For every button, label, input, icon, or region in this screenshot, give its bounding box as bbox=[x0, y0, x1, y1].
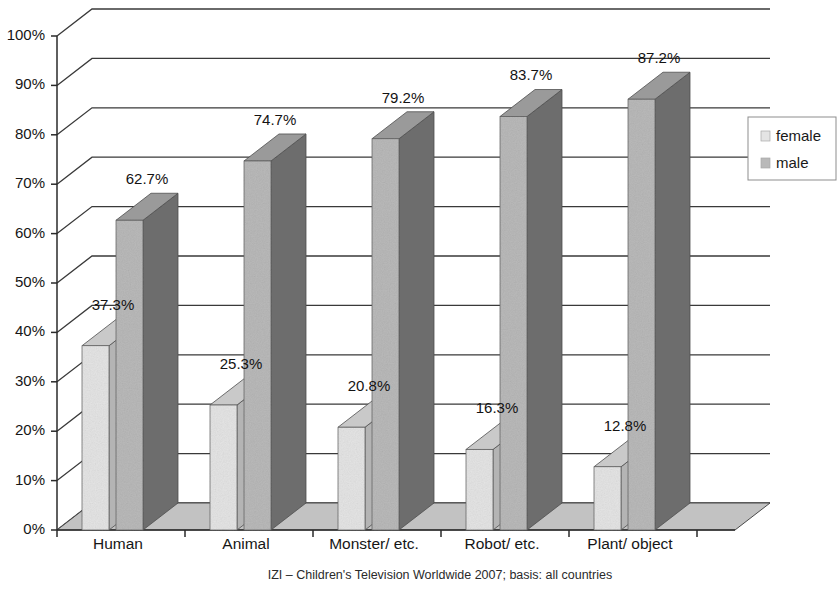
bar-value-label: 37.3% bbox=[92, 296, 135, 313]
bar-front-face bbox=[244, 161, 271, 530]
legend-label-male: male bbox=[776, 154, 809, 171]
bar-front-face bbox=[372, 139, 399, 530]
bar-front-face bbox=[500, 117, 527, 530]
bar-side-face bbox=[271, 134, 306, 530]
y-axis-tick-label: 10% bbox=[15, 471, 45, 488]
y-axis-tick-label: 30% bbox=[15, 372, 45, 389]
x-axis-category-label: Plant/ object bbox=[587, 535, 673, 552]
bar-value-label: 83.7% bbox=[510, 66, 553, 83]
bar-side-face bbox=[143, 193, 178, 530]
bar-front-face bbox=[338, 427, 365, 530]
y-axis-tick-label: 40% bbox=[15, 322, 45, 339]
bar-value-label: 25.3% bbox=[220, 355, 263, 372]
bar-value-label: 87.2% bbox=[638, 49, 681, 66]
chart-canvas: 0%10%20%30%40%50%60%70%80%90%100% HumanA… bbox=[0, 0, 839, 590]
legend-swatch-male bbox=[761, 158, 770, 168]
legend-label-female: female bbox=[776, 127, 821, 144]
bar-value-label: 74.7% bbox=[254, 111, 297, 128]
y-axis-tick-label: 50% bbox=[15, 273, 45, 290]
bar-front-face bbox=[82, 346, 109, 530]
bar-value-label: 20.8% bbox=[348, 377, 391, 394]
bar-front-face bbox=[210, 405, 237, 530]
y-axis-tick-label: 90% bbox=[15, 75, 45, 92]
y-axis-tick-label: 80% bbox=[15, 125, 45, 142]
bar-front-face bbox=[628, 99, 655, 530]
bar-value-label: 12.8% bbox=[604, 417, 647, 434]
bar-male-animal bbox=[244, 134, 306, 530]
bar-value-label: 16.3% bbox=[476, 399, 519, 416]
bar-front-face bbox=[116, 220, 143, 530]
y-axis-tick-label: 0% bbox=[23, 520, 45, 537]
bar-male-plant-object bbox=[628, 72, 690, 530]
bar-male-human bbox=[116, 193, 178, 530]
legend-swatch-female bbox=[761, 131, 770, 141]
y-axis-tick-label: 20% bbox=[15, 421, 45, 438]
bar-male-monster-etc- bbox=[372, 112, 434, 530]
x-axis-category-label: Robot/ etc. bbox=[465, 535, 540, 552]
y-axis-tick-label: 100% bbox=[7, 26, 45, 43]
bar-male-robot-etc- bbox=[500, 90, 562, 530]
y-axis-tick-label: 60% bbox=[15, 224, 45, 241]
bar-front-face bbox=[466, 449, 493, 530]
bar-side-face bbox=[527, 90, 562, 530]
chart-caption: IZI – Children's Television Worldwide 20… bbox=[268, 568, 612, 582]
y-axis-tick-label: 70% bbox=[15, 174, 45, 191]
bar-side-face bbox=[655, 72, 690, 530]
bar-side-face bbox=[399, 112, 434, 530]
x-axis-category-label: Human bbox=[93, 535, 143, 552]
bar-value-label: 79.2% bbox=[382, 89, 425, 106]
bar-chart-figure: 0%10%20%30%40%50%60%70%80%90%100% HumanA… bbox=[0, 0, 839, 590]
x-axis-category-label: Animal bbox=[222, 535, 269, 552]
bar-front-face bbox=[594, 467, 621, 530]
x-axis-category-label: Monster/ etc. bbox=[329, 535, 419, 552]
bar-value-label: 62.7% bbox=[126, 170, 169, 187]
chart-legend[interactable]: femalemale bbox=[748, 117, 836, 180]
